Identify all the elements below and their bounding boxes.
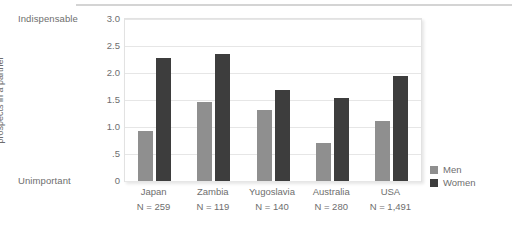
plot-area — [124, 18, 422, 182]
y-axis-tick-label: 2.0 — [92, 67, 120, 78]
x-axis-category-sample-size: N = 119 — [183, 199, 242, 214]
x-axis-category-sample-size: N = 140 — [242, 199, 301, 214]
legend-label: Men — [443, 164, 461, 175]
x-axis-category-name: Japan — [124, 184, 183, 199]
bars-layer — [125, 19, 421, 181]
bar-yugoslavia-women[interactable] — [275, 90, 290, 181]
bar-japan-men[interactable] — [138, 131, 153, 181]
x-axis-label-group: JapanN = 259 — [124, 184, 183, 230]
x-axis-category-name: Zambia — [183, 184, 242, 199]
y-axis-tick-label: 1.5 — [92, 94, 120, 105]
gridline — [125, 181, 421, 182]
bar-australia-women[interactable] — [334, 98, 349, 181]
x-axis-label-group: AustraliaN = 280 — [302, 184, 361, 230]
x-axis-category-name: Australia — [302, 184, 361, 199]
y-axis-title-line2: prospects in a partner — [0, 20, 6, 180]
bar-yugoslavia-men[interactable] — [257, 110, 272, 181]
legend-item-men[interactable]: Men — [430, 163, 476, 176]
y-axis-tick-labels: 3.02.52.01.51.0.50 — [92, 0, 120, 237]
bar-group — [362, 19, 421, 181]
x-axis-category-sample-size: N = 280 — [302, 199, 361, 214]
x-axis-category-name: Yugoslavia — [242, 184, 301, 199]
legend-item-women[interactable]: Women — [430, 176, 476, 189]
legend-swatch-men — [430, 166, 438, 174]
bar-group — [303, 19, 362, 181]
y-axis-title: Importance of good financial prospects i… — [0, 20, 14, 180]
chart-legend: MenWomen — [430, 163, 476, 189]
x-axis-category-labels: JapanN = 259ZambiaN = 119YugoslaviaN = 1… — [124, 184, 420, 230]
x-axis-category-sample-size: N = 259 — [124, 199, 183, 214]
bar-zambia-women[interactable] — [215, 54, 230, 181]
x-axis-category-name: USA — [361, 184, 420, 199]
y-axis-tick-label: 2.5 — [92, 40, 120, 51]
legend-swatch-women — [430, 179, 438, 187]
header-divider — [76, 4, 512, 6]
bar-australia-men[interactable] — [316, 143, 331, 181]
legend-label: Women — [443, 177, 476, 188]
x-axis-label-group: ZambiaN = 119 — [183, 184, 242, 230]
bar-usa-women[interactable] — [393, 76, 408, 181]
y-axis-anchor-high: Indispensable — [18, 13, 78, 24]
x-axis-category-sample-size: N = 1,491 — [361, 199, 420, 214]
y-axis-tick-label: 0 — [92, 175, 120, 186]
y-axis-tick-label: 3.0 — [92, 13, 120, 24]
x-axis-label-group: USAN = 1,491 — [361, 184, 420, 230]
bar-group — [243, 19, 302, 181]
y-axis-anchor-low: Unimportant — [18, 175, 71, 186]
bar-japan-women[interactable] — [156, 58, 171, 181]
bar-group — [184, 19, 243, 181]
y-axis-tick-label: 1.0 — [92, 121, 120, 132]
bar-zambia-men[interactable] — [197, 102, 212, 181]
x-axis-label-group: YugoslaviaN = 140 — [242, 184, 301, 230]
chart-figure: Indispensable Unimportant Importance of … — [0, 0, 512, 237]
y-axis-tick-label: .5 — [92, 148, 120, 159]
bar-usa-men[interactable] — [375, 121, 390, 181]
bar-group — [125, 19, 184, 181]
